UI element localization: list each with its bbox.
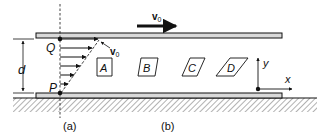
panel-b-label: (b): [161, 120, 174, 132]
ground: [13, 98, 317, 112]
point-q-label: Q: [46, 41, 55, 55]
gap-label: d: [18, 62, 26, 77]
axis-y-label: y: [262, 57, 270, 69]
axis-x-label: x: [284, 73, 291, 85]
svg-text:B: B: [143, 62, 150, 74]
couette-flow-diagram: d Q P v0 v0 A B C D y: [0, 0, 317, 137]
element-c: C: [182, 58, 205, 76]
svg-text:A: A: [99, 62, 107, 74]
svg-text:D: D: [227, 62, 235, 74]
element-b: B: [138, 58, 158, 76]
velocity-profile: [60, 39, 99, 93]
element-a: A: [97, 58, 112, 76]
point-q: [58, 37, 63, 42]
point-p: [58, 91, 63, 96]
profile-velocity-label: v0: [110, 46, 120, 58]
bottom-plate: [36, 93, 282, 98]
top-plate: [36, 33, 282, 38]
panel-a-label: (a): [63, 120, 76, 132]
svg-text:C: C: [188, 62, 196, 74]
plate-velocity-label: v0: [152, 11, 162, 23]
element-d: D: [216, 58, 248, 76]
coordinate-axes: y x: [256, 57, 292, 91]
point-p-label: P: [49, 81, 57, 95]
